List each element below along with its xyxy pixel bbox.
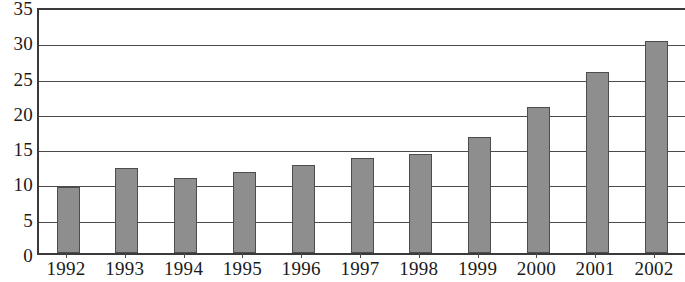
y-tick-label: 5 xyxy=(0,210,33,229)
y-tick-label: 15 xyxy=(0,140,33,159)
x-tick-label: 1999 xyxy=(446,258,510,280)
bar xyxy=(351,158,374,253)
y-tick-label: 30 xyxy=(0,34,33,53)
x-tick-label: 1996 xyxy=(269,258,333,280)
x-tick-label: 1997 xyxy=(328,258,392,280)
bar xyxy=(468,137,491,253)
x-tick-label: 1993 xyxy=(93,258,157,280)
bar xyxy=(527,107,550,253)
x-tick-label: 2001 xyxy=(563,258,627,280)
x-tick-label: 1995 xyxy=(210,258,274,280)
y-axis-labels: 05101520253035 xyxy=(0,0,33,282)
bar xyxy=(57,187,80,253)
bar-chart: 05101520253035 1992199319941995199619971… xyxy=(0,0,685,282)
x-tick-label: 1994 xyxy=(152,258,216,280)
bar xyxy=(174,178,197,254)
bar xyxy=(115,168,138,253)
y-tick-label: 25 xyxy=(0,69,33,88)
y-tick-label: 0 xyxy=(0,246,33,265)
bar xyxy=(645,41,668,253)
x-tick-label: 1998 xyxy=(387,258,451,280)
x-tick-label: 1992 xyxy=(34,258,98,280)
x-tick-label: 2002 xyxy=(622,258,685,280)
bar xyxy=(586,72,609,253)
bar xyxy=(233,172,256,253)
x-tick-label: 2000 xyxy=(504,258,568,280)
bars-layer xyxy=(39,10,685,253)
y-tick-label: 35 xyxy=(0,0,33,18)
y-tick-label: 20 xyxy=(0,104,33,123)
x-axis-labels: 1992199319941995199619971998199920002001… xyxy=(37,258,685,282)
y-tick-label: 10 xyxy=(0,175,33,194)
bar xyxy=(292,165,315,253)
bar xyxy=(409,154,432,253)
plot-area xyxy=(37,8,685,255)
